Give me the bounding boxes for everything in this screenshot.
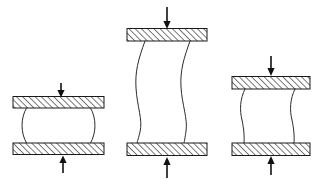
bottom-platen-1 bbox=[13, 143, 104, 155]
compression-diagram bbox=[0, 0, 317, 187]
bottom-platen-2 bbox=[127, 143, 207, 156]
figure-canvas bbox=[0, 0, 317, 187]
top-platen-1 bbox=[13, 97, 104, 109]
top-platen-3 bbox=[232, 77, 310, 90]
bottom-platen-3 bbox=[232, 143, 310, 156]
top-platen-2 bbox=[127, 29, 207, 42]
